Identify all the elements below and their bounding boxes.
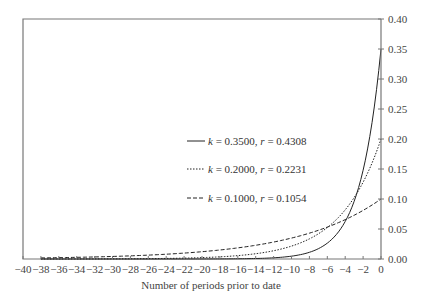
x-tick-label: −40	[14, 263, 32, 275]
x-tick-label: −4	[339, 263, 351, 275]
legend-item-k035: k = 0.3500, r = 0.4308	[187, 135, 307, 147]
x-tick-label: −30	[104, 263, 122, 275]
x-tick-label: −8	[304, 263, 316, 275]
x-tick-label: −36	[50, 263, 68, 275]
series-line-dashed	[41, 199, 381, 258]
x-tick-label: 0	[378, 263, 384, 275]
y-tick-label: 0.20	[388, 133, 408, 145]
legend-item-k010: k = 0.1000, r = 0.1054	[187, 192, 307, 204]
x-tick-label: −10	[283, 263, 301, 275]
y-tick-label: 0.40	[388, 13, 408, 25]
x-tick-label: −34	[68, 263, 86, 275]
curves	[41, 49, 381, 259]
x-tick-label: −12	[265, 263, 282, 275]
legend-label: k = 0.1000, r = 0.1054	[208, 192, 307, 204]
x-tick-label: −16	[229, 263, 247, 275]
y-axis-right: 0.000.050.100.150.200.250.300.350.40	[378, 13, 408, 265]
series-line-solid	[41, 49, 381, 259]
y-tick-label: 0.00	[388, 253, 408, 265]
x-tick-label: −2	[357, 263, 369, 275]
x-axis-title: Number of periods prior to date	[141, 279, 281, 291]
legend-item-k020: k = 0.2000, r = 0.2231	[187, 163, 307, 175]
line-chart: 0.000.050.100.150.200.250.300.350.40 −40…	[0, 0, 423, 306]
x-tick-label: −20	[193, 263, 211, 275]
x-tick-label: −18	[211, 263, 229, 275]
plot-frame	[23, 19, 381, 259]
y-tick-label: 0.35	[388, 43, 408, 55]
y-tick-label: 0.10	[388, 193, 408, 205]
x-tick-label: −24	[158, 263, 176, 275]
plot-border	[23, 19, 381, 259]
x-tick-label: −32	[86, 263, 103, 275]
x-tick-label: −26	[140, 263, 158, 275]
y-tick-label: 0.05	[388, 223, 408, 235]
y-tick-label: 0.25	[388, 103, 408, 115]
y-tick-label: 0.30	[388, 73, 408, 85]
legend-label: k = 0.3500, r = 0.4308	[208, 135, 307, 147]
x-tick-label: −6	[321, 263, 333, 275]
y-tick-label: 0.15	[388, 163, 408, 175]
x-tick-label: −38	[32, 263, 50, 275]
legend-label: k = 0.2000, r = 0.2231	[208, 163, 307, 175]
legend: k = 0.3500, r = 0.4308 k = 0.2000, r = 0…	[187, 135, 307, 204]
x-tick-label: −14	[247, 263, 265, 275]
x-tick-label: −22	[175, 263, 192, 275]
x-tick-label: −28	[122, 263, 140, 275]
